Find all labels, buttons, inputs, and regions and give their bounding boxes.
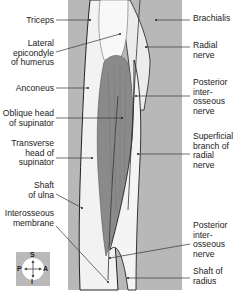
compass-superior: S bbox=[30, 251, 35, 258]
compass-anterior: A bbox=[43, 265, 48, 272]
compass-posterior: P bbox=[17, 265, 22, 272]
label-lateral-epicondyle: Lateral epicondyle of humerus bbox=[4, 39, 54, 68]
anatomy-figure: Triceps Lateral epicondyle of humerus An… bbox=[0, 0, 234, 296]
label-shaft-ulna: Shaft of ulna bbox=[4, 181, 54, 200]
label-posterior-interosseous-nerve-bottom: Posterior inter- osseous nerve bbox=[193, 221, 227, 259]
label-superficial-branch-radial: Superficial branch of radial nerve bbox=[193, 132, 233, 170]
label-anconeus: Anconeus bbox=[4, 84, 54, 94]
label-interosseous-membrane: Interosseous membrane bbox=[0, 209, 54, 228]
compass-inferior: I bbox=[31, 278, 33, 285]
label-shaft-radius: Shaft of radius bbox=[193, 267, 223, 286]
label-brachialis: Brachialis bbox=[193, 14, 230, 24]
label-posterior-interosseous-nerve-top: Posterior inter- osseous nerve bbox=[193, 78, 227, 116]
label-radial-nerve: Radial nerve bbox=[193, 41, 217, 60]
label-triceps: Triceps bbox=[4, 16, 54, 26]
label-oblique-head-supinator: Oblique head of supinator bbox=[0, 109, 54, 128]
orientation-compass: S I P A bbox=[16, 252, 50, 286]
label-transverse-head-supinator: Transverse head of supinator bbox=[4, 139, 54, 168]
